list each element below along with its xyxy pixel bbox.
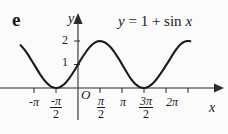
equation-constant: 1 [141,13,149,29]
figure-panel: e y = 1 + sin x y x O 2 1 -π -π 2 π 2 π … [0,0,228,134]
x-axis-arrowhead [214,83,224,92]
y-axis-label: y [68,12,74,26]
equation-variable: x [185,13,192,29]
y-tick-label-1: 1 [62,56,68,68]
sine-curve [21,41,191,88]
x-tick-label-pi-over-2: π 2 [91,95,111,121]
equation-function: sin [164,13,182,29]
panel-letter: e [12,10,20,29]
x-tick-label-neg-pi: -π [24,95,44,110]
x-tick-label-3pi-over-2: 3π 2 [133,95,159,121]
equation-lhs: y [118,13,125,29]
equation-plus: + [152,13,160,29]
equation-equals: = [128,13,136,29]
plot-canvas [0,0,228,134]
equation-label: y = 1 + sin x [118,14,192,29]
x-tick-label-neg-pi-over-2: -π 2 [46,95,66,121]
origin-label: O [81,88,90,101]
y-axis-arrowhead [73,13,82,24]
y-tick-label-2: 2 [62,34,68,46]
x-tick-label-2pi: 2π [160,95,184,110]
x-tick-label-pi: π [113,95,133,110]
x-axis-label: x [209,101,215,115]
